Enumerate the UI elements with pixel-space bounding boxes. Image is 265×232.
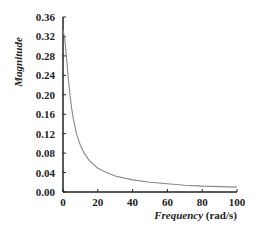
y-tick-label: 0.20 [36,89,56,101]
x-axis-title: Frequency (rad/s) [153,209,237,222]
x-tick-label: 0 [60,196,66,208]
x-tick-label: 40 [127,196,139,208]
x-tick-label: 20 [92,196,104,208]
y-tick-label: 0.28 [36,50,56,62]
magnitude-curve [63,30,237,187]
axis-ticks [63,17,237,192]
y-tick-label: 0.00 [36,186,56,198]
x-tick-label: 80 [197,196,209,208]
x-tick-label: 60 [162,196,174,208]
y-tick-label: 0.12 [36,128,56,140]
y-tick-label: 0.04 [36,167,56,179]
y-tick-label: 0.16 [36,108,56,120]
y-tick-label: 0.36 [36,11,56,23]
y-axis-tick-labels: 0.000.040.080.120.160.200.240.280.320.36 [36,11,56,198]
x-axis-tick-labels: 020406080100 [60,196,246,208]
y-tick-label: 0.24 [36,69,56,81]
y-tick-label: 0.08 [36,147,56,159]
y-tick-label: 0.32 [36,30,56,42]
x-axis-title-unit: (rad/s) [206,209,238,222]
y-axis-title: Magnitude [12,37,24,88]
x-tick-label: 100 [229,196,246,208]
magnitude-chart: 0.000.040.080.120.160.200.240.280.320.36… [0,0,265,232]
x-axis-title-label: Frequency [153,209,203,221]
